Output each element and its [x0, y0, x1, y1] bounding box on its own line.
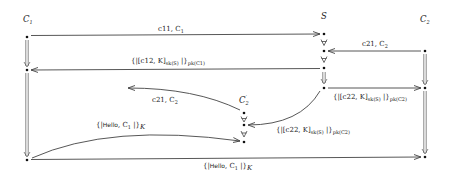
node-c2p-3 — [243, 141, 246, 144]
strand-c2 — [422, 54, 428, 154]
msg-c1-to-c2 — [31, 157, 421, 160]
node-c1-3 — [26, 159, 29, 162]
node-c2-1 — [424, 50, 427, 53]
role-c2-label: C2 — [420, 14, 430, 25]
role-c2-prime-label: C2′ — [239, 94, 249, 106]
msg-c1-to-c2-label: {|Hello, C1 |}K — [203, 162, 253, 172]
node-s-4 — [323, 87, 326, 90]
msg-c1-to-s — [31, 34, 320, 36]
role-s-label: S — [321, 11, 327, 21]
protocol-diagram: C1 S C2 C2′ — [0, 0, 449, 178]
msg-s-to-c1 — [31, 69, 320, 71]
node-c2p-1 — [243, 112, 246, 115]
msg-s-to-c1-label: {|[c12, K]sk(S) |}pk(C1) — [131, 57, 205, 67]
msg-s-to-c2p — [248, 91, 320, 125]
node-c2-3 — [424, 156, 427, 159]
msg-c1-to-s-label: c11, C1 — [158, 25, 184, 34]
node-s-2 — [323, 50, 326, 53]
strand-s — [321, 40, 327, 85]
strand-c1 — [24, 40, 30, 157]
msg-c2-to-s-label: c21, C2 — [362, 40, 388, 49]
role-c1-label: C1 — [23, 14, 33, 25]
node-s-1 — [323, 33, 326, 36]
node-s-3 — [323, 67, 326, 70]
node-c1-2 — [26, 69, 29, 72]
msg-s-to-c2-label: {|[c22, K]sk(S) |}pk(C2) — [333, 93, 407, 103]
msg-c1-to-c2p-label: {|Hello, C1 |}K — [96, 121, 146, 131]
msg-s-to-c2p-label: {|[c22, K]sk(S) |}pk(C2) — [276, 126, 350, 136]
msg-c2p-out-label: c21, C2 — [152, 96, 178, 105]
msg-c2p-out — [128, 88, 240, 110]
strand-c2p — [241, 117, 247, 138]
node-c1-1 — [26, 36, 29, 39]
node-c2p-2 — [243, 124, 246, 127]
msg-c1-to-c2p — [32, 135, 240, 158]
node-c2-2 — [424, 87, 427, 90]
